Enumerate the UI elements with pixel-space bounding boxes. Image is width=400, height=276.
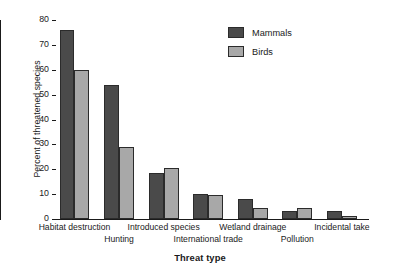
bar xyxy=(297,208,312,219)
bar xyxy=(60,30,75,219)
x-axis-line xyxy=(56,219,369,220)
x-axis-label: Introduced species xyxy=(128,222,200,232)
x-axis-label: Habitat destruction xyxy=(39,222,111,232)
bar xyxy=(238,199,253,219)
bar xyxy=(164,168,179,219)
x-axis-label: Hunting xyxy=(104,234,134,244)
plot-area xyxy=(56,20,368,219)
legend-label: Birds xyxy=(252,47,273,57)
x-axis-title: Threat type xyxy=(0,252,400,263)
bar xyxy=(74,70,89,219)
legend-label: Mammals xyxy=(252,28,292,38)
y-axis-tick-label: 80 xyxy=(39,14,49,24)
bar xyxy=(193,194,208,219)
bar xyxy=(342,216,357,219)
x-axis-label: Wetland drainage xyxy=(219,222,286,232)
bar xyxy=(327,211,342,219)
legend-swatch xyxy=(228,27,244,38)
chart-legend: MammalsBirds xyxy=(228,23,292,61)
bar xyxy=(208,195,223,219)
bar xyxy=(149,173,164,219)
y-axis-tick-label: 40 xyxy=(39,114,49,124)
y-axis-tick-label: 30 xyxy=(39,138,49,148)
legend-item: Mammals xyxy=(228,23,292,42)
y-axis-tick-label: 70 xyxy=(39,39,49,49)
x-axis-label: International trade xyxy=(174,234,243,244)
legend-item: Birds xyxy=(228,42,292,61)
bar xyxy=(253,208,268,219)
bar-chart: Percent of threatened species 0102030405… xyxy=(0,0,400,276)
y-axis-tick-label: 20 xyxy=(39,163,49,173)
x-axis-label: Pollution xyxy=(281,234,314,244)
bar xyxy=(104,85,119,219)
y-axis-tick-label: 60 xyxy=(39,64,49,74)
bar xyxy=(119,147,134,219)
y-axis-tick-label: 10 xyxy=(39,188,49,198)
x-axis-label: Incidental take xyxy=(314,222,369,232)
y-axis-tick-label: 50 xyxy=(39,89,49,99)
tick-mark xyxy=(52,219,56,220)
bar xyxy=(282,211,297,219)
x-axis-labels: Habitat destructionHuntingIntroduced spe… xyxy=(0,222,400,248)
y-axis-line xyxy=(0,20,1,220)
legend-swatch xyxy=(228,46,244,57)
bars-layer xyxy=(56,20,368,219)
